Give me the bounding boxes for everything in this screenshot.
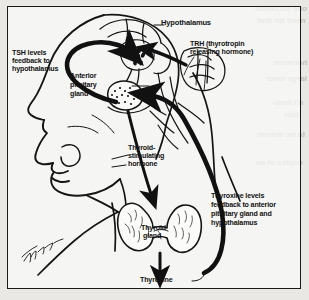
diagram-panel: Hypothalamus TRH (thyrotropin releasing … [7, 6, 301, 289]
label-tsh-feedback-line3: hypothalamus [12, 66, 58, 74]
label-thyroxine-feedback-line4: hypothalamus [211, 220, 257, 228]
label-anterior-pituitary-line1: Anterior [70, 73, 96, 81]
label-hypothalamus: Hypothalamus [161, 19, 211, 27]
label-thyroxine: Thyroxine [140, 277, 173, 285]
label-thyroxine-feedback-line2: feedback to anterior [211, 202, 276, 210]
artist-signature [22, 239, 63, 262]
brain-outline [100, 19, 225, 143]
label-anterior-pituitary-line2: pituitary [70, 82, 97, 90]
label-thyroid-gland-line2: gland [143, 233, 161, 241]
label-thyroxine-feedback-line3: pituitary gland and [211, 211, 272, 219]
ear [61, 145, 80, 166]
scanned-page: one secretion need for that hormone larg… [0, 0, 309, 300]
anterior-pituitary-gland [108, 81, 143, 110]
label-tsh-line3: hormone [128, 161, 157, 169]
nasal-sinus-outline [68, 115, 114, 133]
label-anterior-pituitary-line3: gland [70, 91, 88, 99]
hypothalamus-structure [126, 44, 146, 66]
label-thyroxine-feedback-line1: Thyroxine levels [211, 193, 264, 201]
label-trh-line2: releasing hormone) [190, 49, 253, 57]
